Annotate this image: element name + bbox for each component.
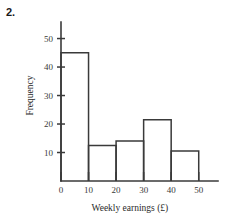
histogram-figure: 2. 102030405001020304050 Weekly earnings… (0, 0, 243, 217)
y-axis-title: Frequency (25, 75, 35, 115)
y-axis-tick-label: 20 (44, 119, 54, 129)
bars-group (61, 53, 199, 181)
histogram-bar (144, 120, 172, 181)
tick-labels-group: 102030405001020304050 (44, 34, 204, 195)
y-axis-tick-label: 40 (44, 62, 54, 72)
histogram-chart: 102030405001020304050 Weekly earnings (£… (0, 0, 243, 217)
y-axis-tick-label: 10 (44, 148, 54, 158)
histogram-bar (171, 151, 199, 181)
x-axis-tick-label: 40 (167, 185, 177, 195)
x-axis-title: Weekly earnings (£) (91, 203, 168, 214)
x-axis-tick-label: 20 (112, 185, 122, 195)
axes-group (61, 22, 218, 181)
x-axis-tick-label: 30 (139, 185, 149, 195)
x-axis-tick-label: 10 (84, 185, 94, 195)
x-axis-tick-label: 50 (194, 185, 204, 195)
histogram-bar (116, 141, 144, 181)
y-axis-tick-label: 30 (44, 91, 54, 101)
ticks-group (57, 39, 199, 181)
question-number: 2. (6, 6, 15, 18)
histogram-bar (61, 53, 89, 181)
x-axis-tick-label: 0 (59, 185, 64, 195)
y-axis-tick-label: 50 (44, 34, 54, 44)
histogram-bar (89, 145, 117, 181)
